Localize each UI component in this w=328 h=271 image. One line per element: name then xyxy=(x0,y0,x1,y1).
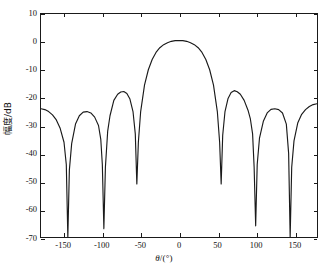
y-tick-label: -10 xyxy=(3,65,37,73)
x-tick-label: 50 xyxy=(198,241,238,250)
x-tick-mark-top xyxy=(180,14,181,17)
x-tick-label: 100 xyxy=(236,241,276,250)
y-tick-label: -40 xyxy=(3,149,37,157)
beam-pattern-curve xyxy=(41,14,317,237)
y-tick-mark xyxy=(41,98,45,99)
y-tick-mark xyxy=(41,155,45,156)
x-tick-mark-top xyxy=(257,14,258,17)
y-tick-mark xyxy=(41,211,45,212)
y-tick-mark xyxy=(41,42,45,43)
x-tick-label: 0 xyxy=(159,241,199,250)
x-tick-label: 150 xyxy=(275,241,315,250)
x-tick-mark xyxy=(219,233,220,237)
x-tick-mark xyxy=(180,233,181,237)
x-tick-label: -150 xyxy=(43,241,83,250)
y-tick-mark-right xyxy=(314,183,317,184)
y-tick-label: -50 xyxy=(3,177,37,185)
x-tick-mark-top xyxy=(141,14,142,17)
y-axis-title: 幅度/dB xyxy=(1,89,14,149)
x-tick-mark-top xyxy=(296,14,297,17)
y-tick-mark-right xyxy=(314,70,317,71)
x-axis-title: θ/(°) xyxy=(0,253,328,263)
x-tick-mark-top xyxy=(219,14,220,17)
y-tick-label: 0 xyxy=(3,37,37,45)
y-tick-mark-right xyxy=(314,14,317,15)
y-tick-mark-right xyxy=(314,98,317,99)
plot-area xyxy=(40,13,318,238)
y-tick-mark xyxy=(41,239,45,240)
y-tick-mark xyxy=(41,14,45,15)
x-tick-mark xyxy=(141,233,142,237)
y-tick-mark-right xyxy=(314,127,317,128)
x-axis-title-unit: /(°) xyxy=(160,253,173,263)
y-tick-mark-right xyxy=(314,239,317,240)
x-tick-mark xyxy=(64,233,65,237)
figure-root: 100-10-20-30-40-50-60-70 -150-100-500501… xyxy=(0,0,328,271)
y-tick-label: 10 xyxy=(3,9,37,17)
x-tick-label: -50 xyxy=(120,241,160,250)
x-tick-mark xyxy=(103,233,104,237)
y-tick-mark xyxy=(41,70,45,71)
y-tick-mark-right xyxy=(314,155,317,156)
y-tick-mark-right xyxy=(314,211,317,212)
x-tick-label: -100 xyxy=(82,241,122,250)
x-tick-mark-top xyxy=(64,14,65,17)
y-tick-mark xyxy=(41,127,45,128)
x-tick-mark xyxy=(296,233,297,237)
y-tick-label: -60 xyxy=(3,205,37,213)
x-tick-mark xyxy=(257,233,258,237)
y-tick-mark-right xyxy=(314,42,317,43)
x-tick-mark-top xyxy=(103,14,104,17)
y-tick-mark xyxy=(41,183,45,184)
